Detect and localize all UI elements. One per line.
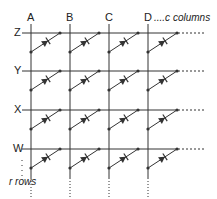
junction-dot <box>97 31 100 34</box>
diode-icon <box>41 38 50 48</box>
diode-icon <box>41 76 50 86</box>
junction-dot <box>68 127 71 130</box>
row-label-x: X <box>14 104 21 115</box>
junction-dot <box>136 31 139 34</box>
junction-dot <box>136 108 139 111</box>
diode-icon <box>80 38 89 48</box>
column-label-c: C <box>105 12 113 23</box>
junction-dot <box>58 69 61 72</box>
diode-icon <box>119 115 128 125</box>
diode-icon <box>41 115 50 125</box>
diode-icon <box>158 154 167 164</box>
junction-dot <box>175 147 178 150</box>
diode-icon <box>41 154 50 164</box>
rows-note: r rows <box>9 177 36 187</box>
junction-dot <box>58 147 61 150</box>
junction-dot <box>146 127 149 130</box>
diode-icon <box>158 38 167 48</box>
junction-dot <box>107 127 110 130</box>
junction-dot <box>107 50 110 53</box>
diode-icon <box>80 115 89 125</box>
junction-dot <box>107 88 110 91</box>
column-label-b: B <box>66 12 73 23</box>
junction-dot <box>146 166 149 169</box>
diode-matrix <box>0 0 217 199</box>
junction-dot <box>146 50 149 53</box>
junction-dot <box>175 31 178 34</box>
junction-dot <box>136 147 139 150</box>
column-label-a: A <box>27 12 34 23</box>
diode-icon <box>119 38 128 48</box>
junction-dot <box>68 166 71 169</box>
junction-dot <box>97 69 100 72</box>
diode-icon <box>80 154 89 164</box>
diode-icon <box>158 115 167 125</box>
columns-note: ....c columns <box>154 13 210 23</box>
junction-dot <box>68 50 71 53</box>
junction-dot <box>97 147 100 150</box>
junction-dot <box>175 69 178 72</box>
junction-dot <box>107 166 110 169</box>
junction-dot <box>29 50 32 53</box>
row-label-w: W <box>13 143 23 154</box>
junction-dot <box>29 88 32 91</box>
junction-dot <box>29 127 32 130</box>
junction-dot <box>58 31 61 34</box>
junction-dot <box>58 108 61 111</box>
row-label-y: Y <box>14 65 21 76</box>
junction-dot <box>29 166 32 169</box>
column-label-d: D <box>144 12 152 23</box>
diode-icon <box>119 76 128 86</box>
diode-icon <box>158 76 167 86</box>
junction-dot <box>136 69 139 72</box>
junction-dot <box>146 88 149 91</box>
junction-dot <box>175 108 178 111</box>
junction-dot <box>97 108 100 111</box>
junction-dot <box>68 88 71 91</box>
row-label-z: Z <box>14 27 21 38</box>
diode-icon <box>80 76 89 86</box>
diode-icon <box>119 154 128 164</box>
